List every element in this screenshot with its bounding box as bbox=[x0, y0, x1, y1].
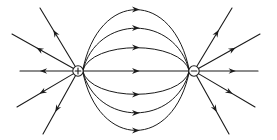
pos-ray-lower-shallow bbox=[17, 74, 73, 107]
neg-ray-upper-shallow-arrow bbox=[228, 45, 237, 53]
pos-ray-upper-shallow bbox=[12, 34, 73, 68]
neg-ray-upper-steep-arrow-glyph bbox=[213, 29, 222, 38]
neg-ray-lower-steep-arrow-glyph bbox=[211, 104, 219, 113]
negative-charge bbox=[189, 66, 199, 76]
pos-ray-lower-steep-arrow bbox=[53, 104, 61, 113]
neg-ray-upper-shallow bbox=[199, 34, 260, 68]
neg-ray-lower-shallow-arrow bbox=[225, 88, 234, 96]
neg-ray-lower-steep-arrow bbox=[211, 104, 219, 113]
neg-ray-lower-steep bbox=[197, 76, 229, 134]
neg-ray-upper-shallow-arrow-glyph bbox=[228, 45, 237, 53]
pos-ray-upper-shallow-arrow-glyph bbox=[35, 45, 44, 53]
arc-lower-1 bbox=[83, 71, 190, 94]
negative-charge-radial-lines-group bbox=[197, 8, 260, 134]
arc-lower-2 bbox=[83, 71, 190, 113]
pos-ray-upper-steep-arrow-glyph bbox=[51, 29, 60, 38]
field-lines-canvas bbox=[0, 0, 277, 140]
pos-ray-lower-shallow-arrow bbox=[38, 88, 47, 96]
positive-charge bbox=[73, 66, 83, 76]
connecting-field-lines-group bbox=[83, 7, 190, 134]
arc-upper-3 bbox=[83, 10, 190, 71]
pos-ray-upper-shallow-arrow bbox=[35, 45, 44, 53]
arc-upper-2 bbox=[83, 28, 190, 71]
neg-ray-lower-shallow-arrow-glyph bbox=[225, 88, 234, 96]
neg-ray-lower-shallow bbox=[199, 74, 255, 107]
pos-ray-upper-steep bbox=[40, 8, 75, 66]
electric-dipole-figure bbox=[0, 0, 277, 140]
pos-ray-lower-steep bbox=[43, 76, 75, 134]
positive-charge-radial-lines-group bbox=[12, 8, 75, 134]
pos-ray-lower-steep-arrow-glyph bbox=[53, 104, 61, 113]
neg-ray-upper-steep bbox=[197, 8, 232, 66]
neg-ray-upper-steep-arrow bbox=[213, 29, 222, 38]
pos-ray-lower-shallow-arrow-glyph bbox=[38, 88, 47, 96]
arc-lower-3 bbox=[83, 71, 190, 130]
arc-upper-1 bbox=[83, 48, 190, 71]
pos-ray-upper-steep-arrow bbox=[51, 29, 60, 38]
